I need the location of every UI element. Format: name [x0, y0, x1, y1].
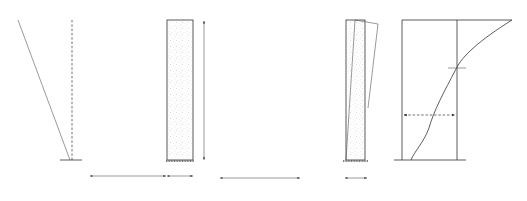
frame-wall-diagram	[0, 0, 527, 201]
lateral-load-diagram	[0, 0, 82, 160]
system-layout-panel	[0, 0, 204, 176]
shear-wall	[167, 20, 193, 160]
shear-distribution-curve	[411, 20, 512, 160]
deformed-wall-original	[346, 20, 365, 160]
load-envelope-line	[18, 20, 70, 160]
shear-distribution-panel	[394, 20, 512, 160]
